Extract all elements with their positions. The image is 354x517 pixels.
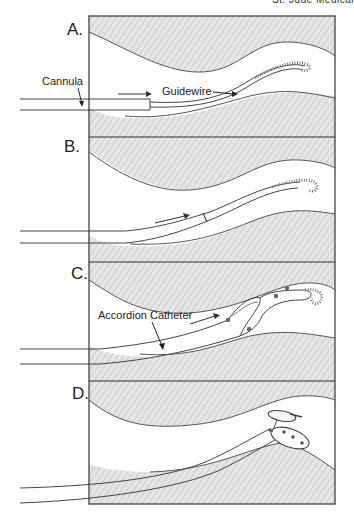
guidewire-label: Guidewire	[162, 85, 212, 97]
panel-label-d: D.	[72, 384, 89, 404]
panel-label-c: C.	[71, 264, 88, 284]
panel-label-b: B.	[64, 137, 80, 157]
cannula-label: Cannula	[42, 75, 83, 87]
panel-label-a: A.	[67, 20, 83, 40]
arrowhead-icon	[79, 101, 84, 107]
panel-a	[89, 16, 335, 137]
procedure-figure: St. Jude Medical	[0, 0, 354, 517]
panel-c	[89, 262, 335, 381]
accordion-catheter-label: Accordion Catheter	[98, 309, 192, 321]
